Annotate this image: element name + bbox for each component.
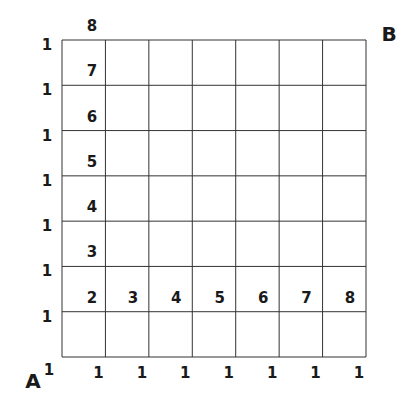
left-edge-count: 1 [42,264,52,279]
bottom-edge-count: 1 [354,366,364,381]
path-count: 7 [301,290,311,305]
bottom-edge-count: 1 [310,366,320,381]
path-count: 8 [345,290,355,305]
left-edge-count: 1 [42,38,52,53]
path-count: 8 [87,19,97,34]
bottom-edge-count: 1 [223,366,233,381]
left-edge-count: 1 [42,128,52,143]
point-b-label: B [381,24,396,44]
path-count: 3 [128,290,138,305]
point-a-label: A [25,371,40,391]
path-count: 2 [87,290,97,305]
path-count: 6 [87,109,97,124]
bottom-edge-count: 1 [267,366,277,381]
bottom-edge-count: 1 [93,366,103,381]
path-count: 7 [87,64,97,79]
bottom-edge-count: 1 [137,366,147,381]
path-count: 4 [171,290,181,305]
left-edge-count: 1 [42,309,52,324]
path-count: 4 [87,200,97,215]
left-edge-count: 1 [42,219,52,234]
path-count: 5 [87,154,97,169]
left-edge-count: 1 [42,173,52,188]
path-count: 3 [87,245,97,260]
bottom-edge-count: 1 [44,363,54,378]
left-edge-count: 1 [42,83,52,98]
path-count: 5 [214,290,224,305]
bottom-edge-count: 1 [180,366,190,381]
path-count: 6 [258,290,268,305]
lattice-grid [0,0,406,417]
